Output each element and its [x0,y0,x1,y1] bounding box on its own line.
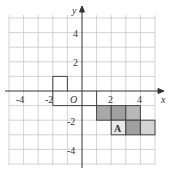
y-tick: 2 [73,57,78,68]
x-tick: -4 [16,94,24,105]
x-tick: 2 [108,94,113,105]
shaded-shape [97,106,155,135]
shape-label-a: A [114,123,122,134]
y-tick: -4 [67,145,75,156]
origin-label: O [70,94,77,105]
y-tick: -2 [67,116,75,127]
x-axis-label: x [160,94,166,105]
x-tick: -2 [45,94,53,105]
x-tick: 4 [137,94,142,105]
coordinate-grid-diagram: x y O -4 -2 2 4 4 2 -2 -4 A [0,0,172,170]
y-tick: 4 [73,28,78,39]
y-axis-label: y [71,5,77,16]
